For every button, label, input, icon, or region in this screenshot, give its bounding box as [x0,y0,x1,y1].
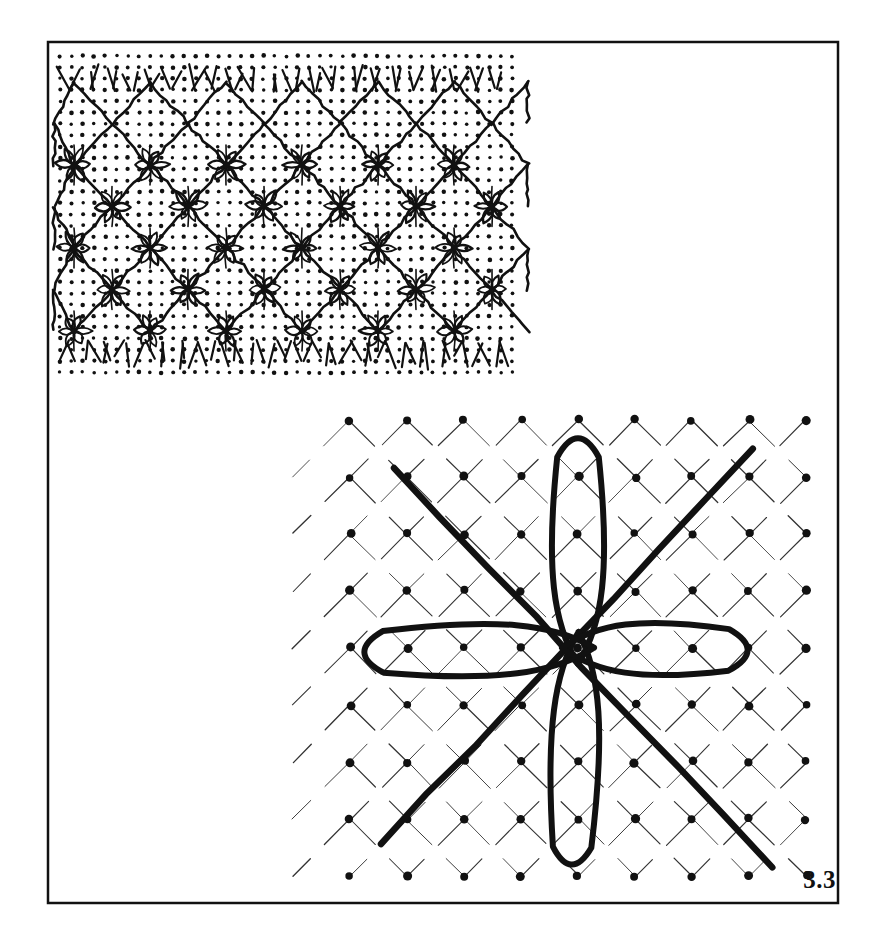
figure-plate: 3.3 [0,0,880,940]
figure-number-label: 3.3 [803,867,836,892]
figure-canvas [0,0,880,940]
